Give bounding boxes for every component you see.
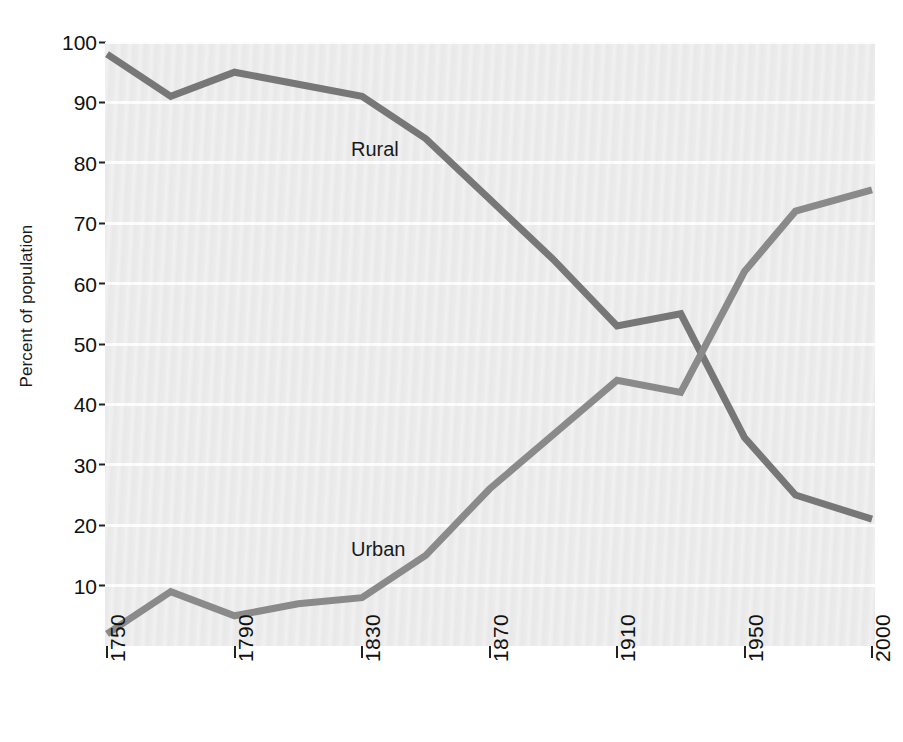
series-line-rural bbox=[107, 54, 872, 519]
y-axis-tick-label: 70 bbox=[47, 213, 97, 234]
series-lines bbox=[105, 42, 875, 646]
y-axis-tick-label: 90 bbox=[47, 92, 97, 113]
y-axis-tick-label: 50 bbox=[47, 334, 97, 355]
y-axis-tick-label: 30 bbox=[47, 454, 97, 475]
x-axis-tick-label: 1830 bbox=[362, 614, 383, 662]
y-axis-tick-labels: 102030405060708090100 bbox=[47, 0, 97, 742]
y-axis-tick-label: 80 bbox=[47, 152, 97, 173]
x-axis-tick-label: 1790 bbox=[235, 614, 256, 662]
series-label-rural: Rural bbox=[351, 138, 399, 161]
x-axis-tick-label: 1870 bbox=[490, 614, 511, 662]
series-line-urban bbox=[107, 190, 872, 634]
plot-area: Rural Urban bbox=[105, 42, 875, 646]
x-axis-tick-label: 1750 bbox=[107, 614, 128, 662]
x-axis-tick-labels: 1750179018301870191019502000 bbox=[105, 646, 875, 742]
x-axis-tick-label: 1950 bbox=[745, 614, 766, 662]
y-axis-title: Percent of population bbox=[17, 176, 37, 436]
y-axis-tick-label: 10 bbox=[47, 575, 97, 596]
x-axis-tick-label: 2000 bbox=[872, 614, 893, 662]
series-label-urban: Urban bbox=[351, 538, 405, 561]
y-axis-tick-label: 40 bbox=[47, 394, 97, 415]
y-axis-tick-label: 60 bbox=[47, 273, 97, 294]
x-axis-tick-label: 1910 bbox=[617, 614, 638, 662]
y-axis-tick-label: 100 bbox=[47, 32, 97, 53]
line-chart-figure: Percent of population 102030405060708090… bbox=[0, 0, 903, 742]
y-axis-tick-label: 20 bbox=[47, 515, 97, 536]
